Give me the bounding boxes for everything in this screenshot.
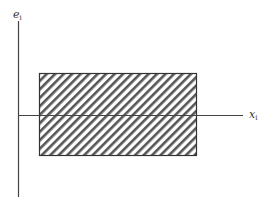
hatched-region <box>40 74 197 156</box>
x-axis-label: xi <box>249 109 257 122</box>
x-axis-label-subscript: i <box>255 114 257 122</box>
y-axis-label-subscript: i <box>20 14 22 22</box>
diagram-canvas <box>0 0 267 208</box>
y-axis-label: ei <box>13 9 22 22</box>
